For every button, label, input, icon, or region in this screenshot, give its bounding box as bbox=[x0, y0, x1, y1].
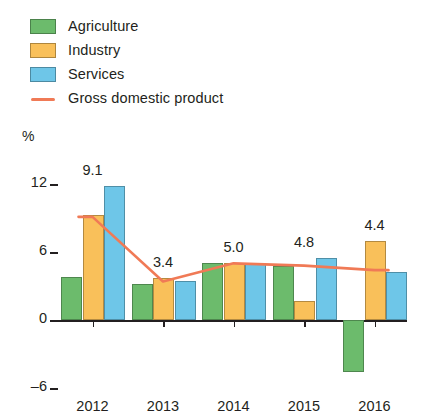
bar-industry-2015 bbox=[294, 301, 315, 320]
x-axis-tick-label: 2013 bbox=[124, 398, 203, 414]
bar-agriculture-2015 bbox=[273, 266, 294, 320]
bar-agriculture-2016 bbox=[343, 320, 364, 372]
x-axis-tick-mark bbox=[234, 322, 236, 327]
y-axis-tick-label: 6 bbox=[5, 242, 47, 258]
bar-industry-2014 bbox=[224, 263, 245, 320]
y-axis-tick-mark bbox=[50, 320, 58, 322]
y-axis-tick-mark bbox=[50, 388, 58, 390]
bar-agriculture-2012 bbox=[61, 277, 82, 320]
chart-figure: AgricultureIndustryServicesGross domesti… bbox=[0, 0, 425, 420]
y-axis-tick-mark bbox=[50, 184, 58, 186]
x-axis-tick-mark bbox=[375, 322, 377, 327]
bar-industry-2016 bbox=[365, 241, 386, 320]
bar-industry-2013 bbox=[153, 278, 174, 320]
y-axis-tick-label: –6 bbox=[5, 378, 47, 394]
y-axis-tick-label: 12 bbox=[5, 174, 47, 190]
y-axis-tick-mark bbox=[50, 252, 58, 254]
bar-services-2016 bbox=[386, 272, 407, 320]
bar-agriculture-2014 bbox=[202, 263, 223, 320]
bar-agriculture-2013 bbox=[132, 284, 153, 320]
bar-services-2013 bbox=[175, 281, 196, 320]
bar-services-2014 bbox=[245, 264, 266, 320]
x-axis-tick-label: 2016 bbox=[335, 398, 414, 414]
bar-industry-2012 bbox=[83, 215, 104, 320]
bar-services-2015 bbox=[316, 258, 337, 320]
x-axis-tick-mark bbox=[163, 322, 165, 327]
x-axis-tick-label: 2014 bbox=[194, 398, 273, 414]
plot-area: –606129.120123.420135.020144.820154.4201… bbox=[0, 0, 425, 420]
y-axis-tick-label: 0 bbox=[5, 310, 47, 326]
data-label-2013: 3.4 bbox=[122, 254, 205, 270]
x-axis-tick-label: 2012 bbox=[53, 398, 132, 414]
data-label-2016: 4.4 bbox=[333, 217, 416, 233]
data-label-2012: 9.1 bbox=[51, 162, 134, 178]
data-label-2015: 4.8 bbox=[263, 234, 346, 250]
x-axis-tick-label: 2015 bbox=[265, 398, 344, 414]
x-axis-tick-mark bbox=[93, 322, 95, 327]
x-axis-tick-mark bbox=[304, 322, 306, 327]
